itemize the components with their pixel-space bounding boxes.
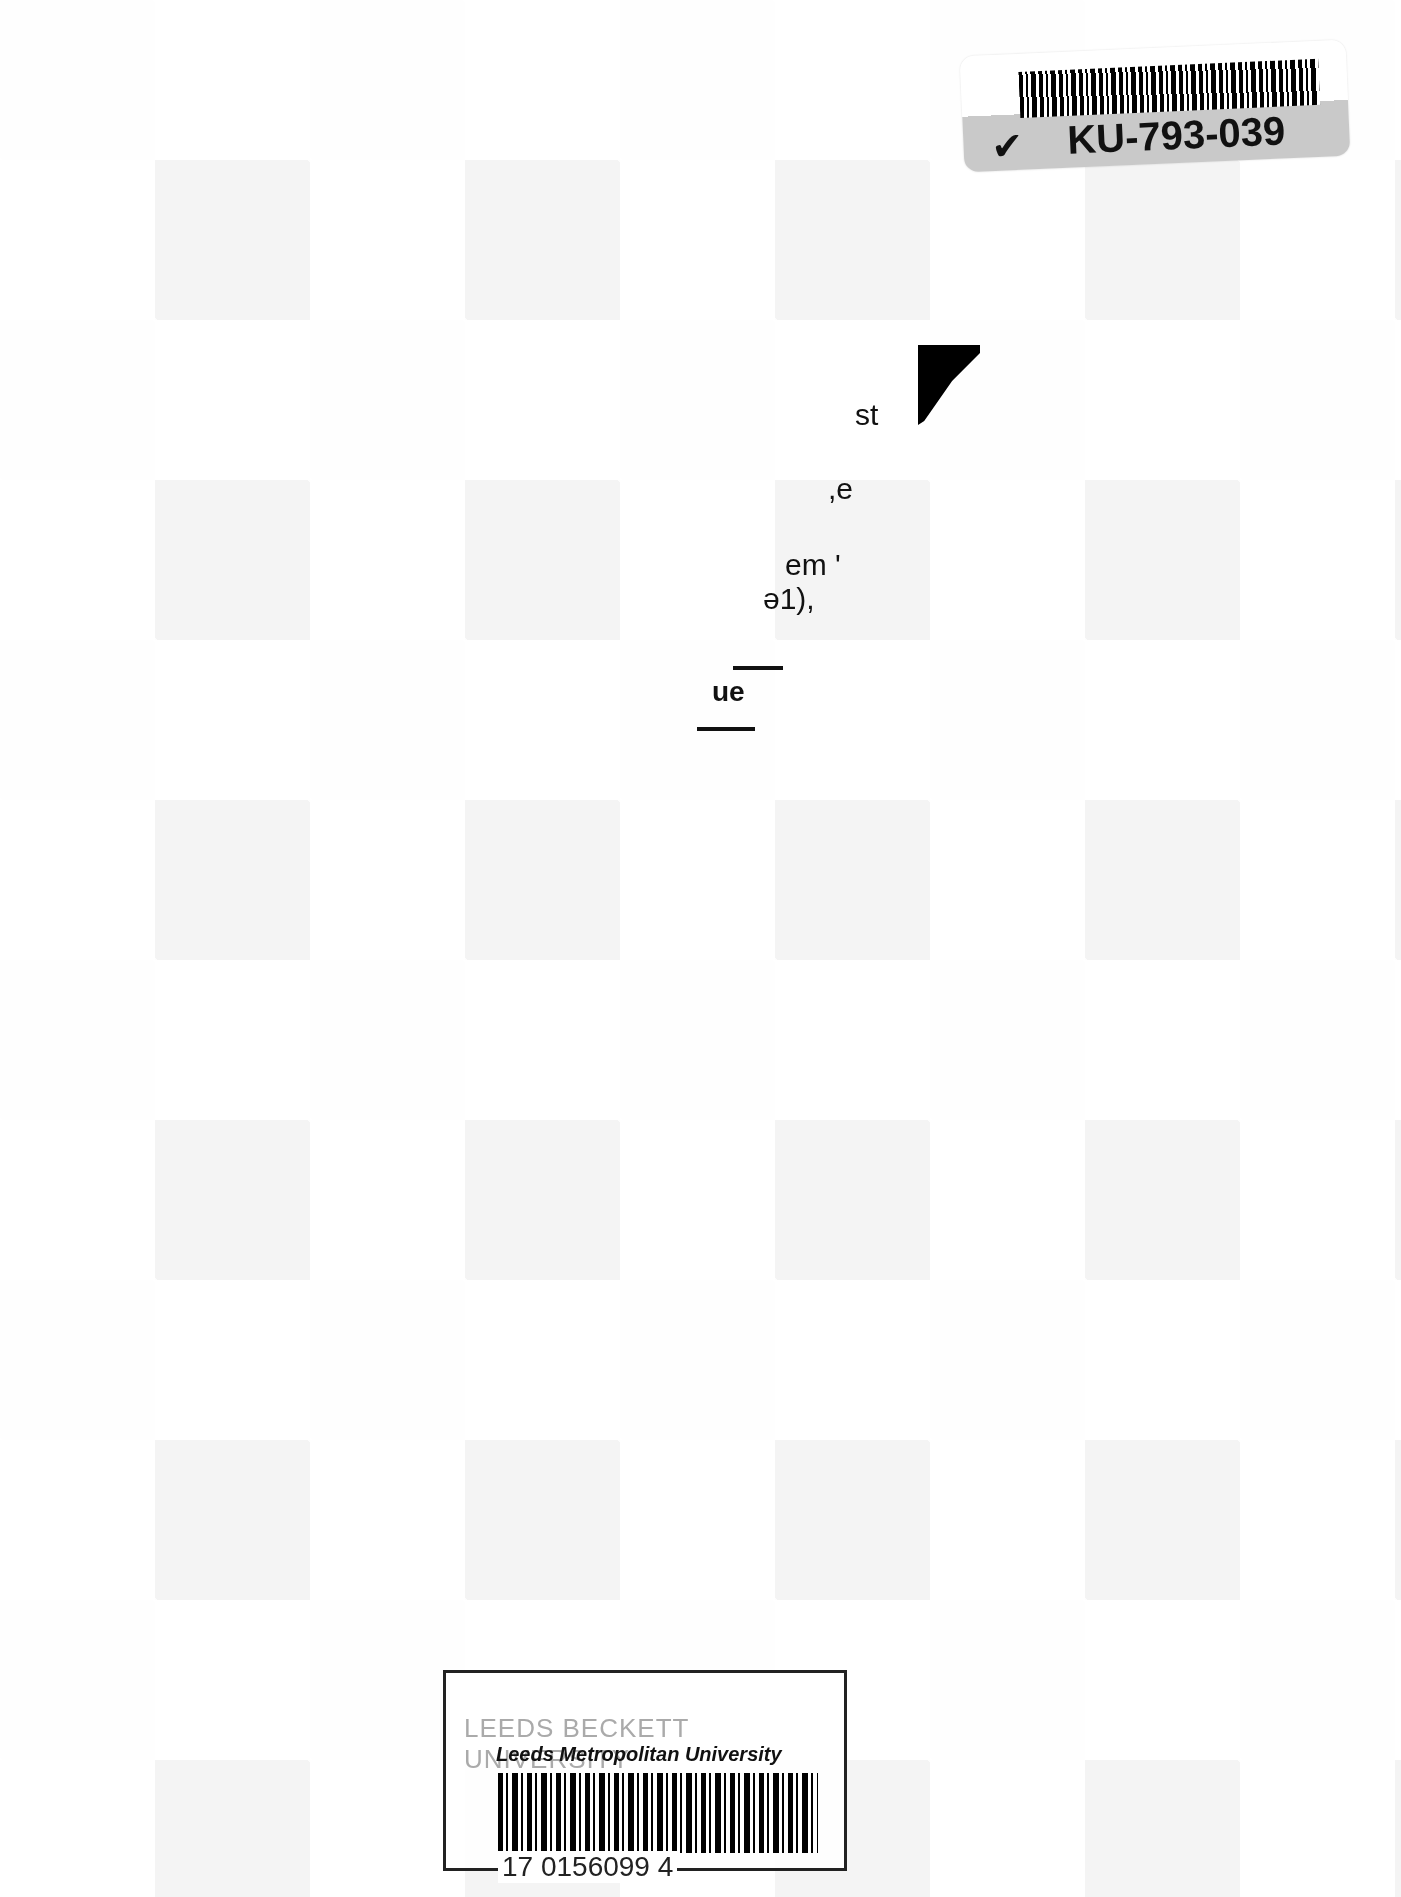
- barcode-label-top: ✔ KU-793-039: [960, 40, 1351, 173]
- checkmark-icon: ✔: [991, 124, 1025, 169]
- university-name: Leeds Metropolitan University: [496, 1743, 782, 1766]
- text-fragment: ,e: [828, 472, 853, 506]
- library-stamp: LEEDS BECKETT UNIVERSITY Leeds Metropoli…: [443, 1670, 847, 1871]
- library-barcode: [498, 1773, 818, 1853]
- text-fragment: em ': [785, 548, 841, 582]
- background-tiles: [0, 0, 1401, 1897]
- text-fragment: st: [855, 398, 878, 432]
- divider-rule: [733, 666, 783, 670]
- barcode-number: 17 0156099 4: [498, 1851, 677, 1883]
- divider-rule: [697, 727, 755, 731]
- label-code: KU-793-039: [1066, 108, 1286, 162]
- text-fragment: ue: [712, 676, 745, 708]
- text-fragment: ə1),: [763, 582, 815, 616]
